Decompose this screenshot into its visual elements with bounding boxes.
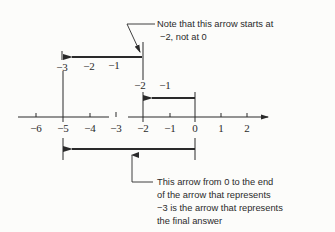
callout-text: This arrow from 0 to the end	[157, 177, 273, 187]
tick-label: −2	[137, 122, 149, 134]
callout-bottom: This arrow from 0 to the end of the arro…	[157, 177, 283, 226]
tick-label: −1	[164, 122, 176, 134]
arrow-label: −2	[83, 60, 95, 72]
callout-text: Note that this arrow starts at	[157, 19, 274, 29]
tick-label: −3	[110, 122, 122, 134]
tick-label: 0	[192, 122, 198, 134]
diagram-svg: −6 −5 −4 −3 −2 −1 0 1 2 −3 −2 −1 −2 −1	[0, 0, 335, 232]
arrow-minus-3: −3 −2 −1	[56, 51, 142, 73]
arrow-label: −2	[134, 79, 146, 91]
arrow-label: −3	[56, 61, 68, 73]
tick-label: 2	[244, 122, 250, 134]
tick-label: −4	[84, 122, 96, 134]
arrow-label: −1	[108, 59, 120, 71]
number-line-diagram: −6 −5 −4 −3 −2 −1 0 1 2 −3 −2 −1 −2 −1	[0, 0, 335, 232]
callout-bottom-leader	[132, 155, 153, 182]
tick-label: 1	[218, 122, 224, 134]
tick-label: −5	[57, 122, 69, 134]
arrow-label: −1	[159, 79, 171, 91]
callout-text: −3 is the arrow that represents	[157, 203, 283, 213]
tick-label: −6	[30, 122, 42, 134]
callout-text: of the arrow that represents	[157, 190, 271, 200]
callout-text: the final answer	[157, 216, 222, 226]
callout-text: −2, not at 0	[160, 32, 207, 42]
callout-top: Note that this arrow starts at −2, not a…	[157, 19, 274, 42]
axis-tick-labels: −6 −5 −4 −3 −2 −1 0 1 2	[30, 122, 250, 134]
callout-top-leader	[127, 24, 155, 52]
